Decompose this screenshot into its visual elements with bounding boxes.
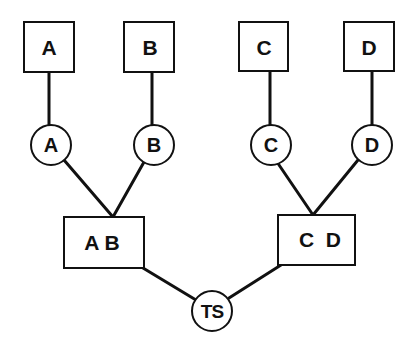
edge-ab-to-ts	[143, 268, 196, 300]
edge-cd-to-ts	[229, 265, 281, 298]
root-label: TS	[201, 301, 224, 322]
box-ab-label: A B	[84, 231, 119, 254]
box-a-label: A	[41, 36, 56, 59]
merge-tree-diagram: A B C D A B C D A B C D TS	[0, 0, 415, 355]
edge-circle-c-to-cd	[277, 162, 313, 215]
circle-a-label: A	[44, 134, 58, 156]
box-c-label: C	[256, 36, 271, 59]
box-d-label: D	[361, 36, 376, 59]
top-box-labels: A B C D	[41, 36, 376, 59]
edge-circle-b-to-ab	[113, 162, 144, 217]
circle-c-label: C	[264, 134, 278, 156]
circle-b-label: B	[147, 134, 161, 156]
box-b-label: B	[142, 36, 157, 59]
edge-circle-a-to-ab	[64, 160, 113, 217]
box-cd-label: C D	[299, 228, 341, 251]
circles	[31, 125, 392, 165]
top-boxes	[24, 22, 394, 72]
circle-labels: A B C D	[44, 134, 379, 156]
edge-circle-d-to-cd	[313, 160, 358, 215]
circle-d-label: D	[365, 134, 379, 156]
